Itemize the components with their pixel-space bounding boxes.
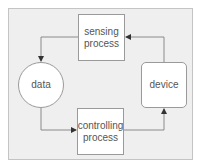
edge-data-to-controlling (41, 108, 76, 130)
node-sensing-process: sensing process (78, 14, 125, 61)
node-label-line: sensing (84, 26, 119, 38)
edge-sensing-to-data (41, 37, 78, 61)
edge-controlling-to-device (124, 109, 164, 130)
node-data: data (18, 62, 64, 108)
edge-device-to-sensing (126, 37, 164, 62)
node-label-line: controlling (78, 120, 124, 132)
node-controlling-process: controlling process (77, 108, 124, 155)
node-label-line: process (84, 38, 119, 50)
node-device: device (141, 62, 187, 108)
node-label-line: process (78, 132, 124, 144)
node-label: data (31, 79, 50, 91)
node-label: device (150, 79, 179, 91)
